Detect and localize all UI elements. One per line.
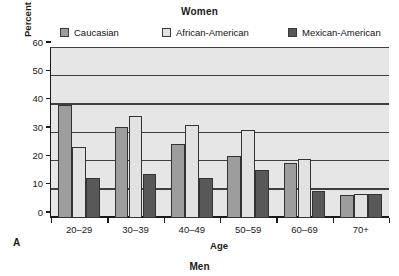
bar [241, 130, 255, 218]
bar [340, 195, 354, 218]
y-tick-label: 20 [32, 150, 46, 161]
x-tick-label: 40–49 [179, 224, 205, 235]
bar [143, 174, 157, 218]
bar [284, 163, 298, 218]
y-tick: 10 [32, 178, 51, 190]
bar [298, 159, 312, 219]
y-tick-label: 10 [32, 178, 46, 189]
bar-group [333, 48, 389, 218]
legend-swatch-icon [60, 28, 69, 37]
bar-group [107, 48, 163, 218]
plot-area: Percent current smokers 0102030405060 20… [50, 47, 389, 218]
y-tick: 0 [38, 206, 51, 218]
bar-group [220, 48, 276, 218]
chart-legend: CaucasianAfrican-AmericanMexican-America… [48, 25, 392, 39]
y-tick: 20 [32, 149, 51, 161]
y-tick-label: 40 [32, 93, 46, 104]
x-tick-label: 20–29 [66, 224, 92, 235]
x-tick-mark [51, 218, 52, 223]
bar [227, 156, 241, 218]
x-tick-label: 60–69 [291, 224, 317, 235]
next-panel-title: Men [0, 261, 399, 272]
legend-swatch-icon [162, 28, 171, 37]
bar-group [164, 48, 220, 218]
x-tick-label: 70+ [353, 224, 369, 235]
figure-panel-a: Women CaucasianAfrican-AmericanMexican-A… [0, 0, 399, 276]
x-tick-mark [333, 218, 334, 223]
legend-label: Caucasian [74, 27, 119, 38]
bar [199, 178, 213, 218]
bar [368, 194, 382, 218]
y-tick: 40 [32, 93, 51, 105]
y-tick-label: 60 [32, 37, 46, 48]
x-tick-mark [389, 218, 390, 223]
bar [185, 125, 199, 219]
y-tick-mark [46, 41, 51, 43]
bar [312, 191, 326, 218]
x-tick-mark [220, 218, 221, 223]
bar [58, 105, 72, 218]
bar [86, 178, 100, 218]
bar [255, 170, 269, 218]
bar [354, 194, 368, 218]
bar-group [276, 48, 332, 218]
y-tick: 60 [32, 36, 51, 48]
legend-item-0: Caucasian [60, 25, 119, 39]
x-tick-mark [164, 218, 165, 223]
y-tick-label: 0 [38, 207, 46, 218]
x-tick-mark [276, 218, 277, 223]
x-tick-label: 30–39 [122, 224, 148, 235]
bar-group [51, 48, 107, 218]
legend-item-2: Mexican-American [288, 25, 381, 39]
bar-series-container [51, 48, 389, 218]
x-tick-mark [107, 218, 108, 223]
y-tick-label: 50 [32, 65, 46, 76]
y-tick-label: 30 [32, 122, 46, 133]
legend-swatch-icon [288, 28, 297, 37]
y-tick: 30 [32, 121, 51, 133]
y-axis-ticks: 0102030405060 [21, 48, 51, 218]
y-tick: 50 [32, 64, 51, 76]
bar [171, 144, 185, 218]
legend-label: African-American [176, 27, 249, 38]
x-axis-title: Age [50, 240, 388, 251]
legend-label: Mexican-American [302, 27, 381, 38]
x-axis-ticks: 20–2930–3940–4950–5960–6970+ [51, 218, 389, 240]
panel-letter: A [13, 237, 20, 248]
bar [72, 147, 86, 218]
chart-title: Women [0, 6, 399, 17]
legend-item-1: African-American [162, 25, 249, 39]
bar [129, 116, 143, 218]
x-tick-label: 50–59 [235, 224, 261, 235]
bar [115, 127, 129, 218]
